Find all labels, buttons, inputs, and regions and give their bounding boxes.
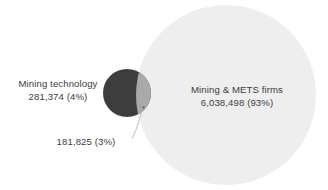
label-mining-technology: Mining technology 281,374 (4%) — [4, 78, 112, 103]
label-mining-technology-title: Mining technology — [4, 78, 112, 91]
label-mining-technology-value: 281,374 (4%) — [4, 91, 112, 104]
leader-anchor-dot — [142, 106, 144, 108]
venn-diagram-figure: Mining technology 281,374 (4%) Mining & … — [0, 0, 328, 190]
label-mining-mets-firms-title: Mining & METS firms — [176, 84, 298, 97]
label-mining-mets-firms-value: 6,038,498 (93%) — [176, 97, 298, 110]
label-overlap-value-text: 181,825 (3%) — [38, 136, 134, 149]
label-mining-mets-firms: Mining & METS firms 6,038,498 (93%) — [176, 84, 298, 109]
label-overlap-value: 181,825 (3%) — [38, 136, 134, 149]
